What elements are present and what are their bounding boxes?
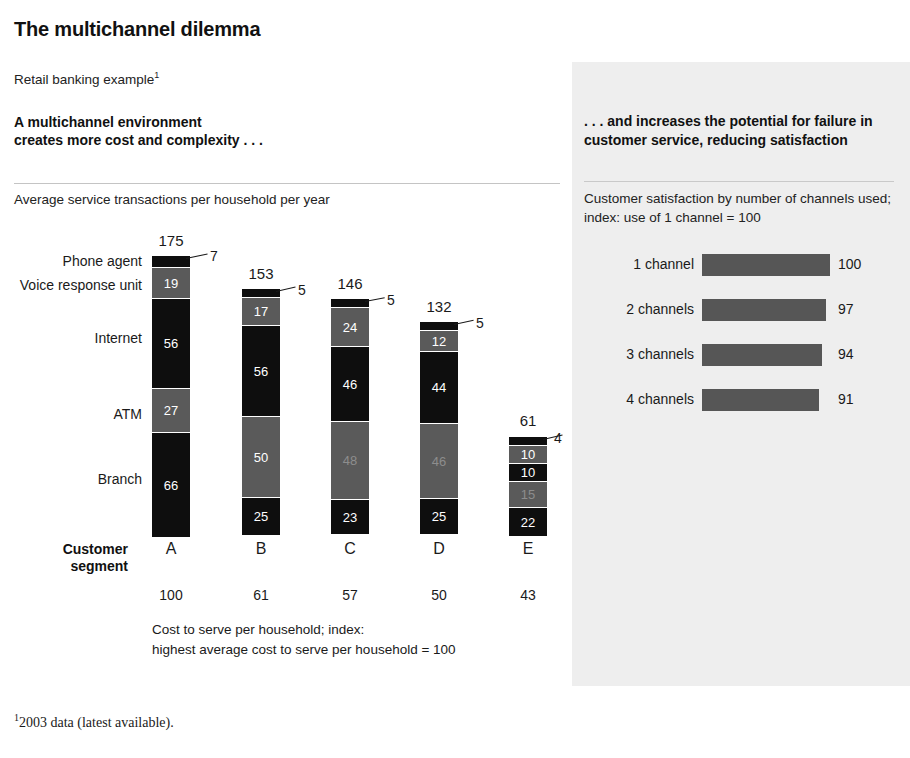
satisfaction-value: 94 [838, 346, 854, 362]
cost-to-serve-note-line-2: highest average cost to serve per househ… [152, 640, 552, 660]
transactions-stacked-column-chart: Phone agent Voice response unit Internet… [0, 0, 572, 700]
segment-letter-e: E [498, 540, 558, 558]
segment-b-voice-response-unit: 17 [242, 298, 280, 325]
footnote-text: 2003 data (latest available). [19, 715, 174, 730]
column-total-b: 153 [231, 265, 291, 282]
column-total-e: 61 [498, 412, 558, 429]
segment-d-branch: 25 [420, 499, 458, 534]
segment-b-branch: 25 [242, 498, 280, 535]
segment-b-phone-agent-value: 5 [298, 282, 306, 298]
segment-a-internet: 56 [152, 299, 190, 388]
right-divider [584, 181, 894, 182]
segment-c-branch: 23 [331, 500, 369, 534]
satisfaction-bar [702, 389, 819, 411]
segment-c-voice-response-unit: 24 [331, 308, 369, 346]
segment-letter-d: D [409, 540, 469, 558]
satisfaction-category-label: 1 channel [584, 256, 694, 272]
satisfaction-row: 2 channels 97 [584, 298, 894, 324]
right-deck-heading: . . . and increases the potential for fa… [584, 112, 894, 149]
column-total-a: 175 [141, 232, 201, 249]
satisfaction-bar [702, 299, 826, 321]
segment-letter-c: C [320, 540, 380, 558]
segment-e-voice-response-unit: 10 [509, 446, 547, 463]
segment-e-atm: 15 [509, 482, 547, 507]
leader-line-b [276, 287, 296, 292]
satisfaction-category-label: 4 channels [584, 391, 694, 407]
customer-segment-axis-title: Customer segment [18, 541, 128, 575]
series-label-atm: ATM [2, 406, 142, 422]
series-label-phone-agent: Phone agent [2, 253, 142, 269]
segment-e-branch: 22 [509, 508, 547, 536]
satisfaction-value: 100 [838, 256, 861, 272]
satisfaction-bar [702, 344, 822, 366]
segment-a-branch: 66 [152, 433, 190, 537]
segment-a-voice-response-unit: 19 [152, 268, 190, 298]
segment-e-phone-agent-value: 4 [554, 430, 562, 446]
column-b: 17 56 50 25 [242, 289, 280, 535]
cost-index-b: 61 [231, 587, 291, 603]
column-a: 19 56 27 66 [152, 256, 190, 537]
segment-a-atm: 27 [152, 389, 190, 432]
leader-line-c [365, 297, 385, 302]
segment-a-phone-agent [152, 256, 190, 267]
leader-line-a [186, 253, 208, 259]
segment-b-internet: 56 [242, 326, 280, 416]
cost-index-c: 57 [320, 587, 380, 603]
cost-index-d: 50 [409, 587, 469, 603]
satisfaction-row: 3 channels 94 [584, 343, 894, 369]
segment-e-phone-agent [509, 437, 547, 445]
segment-a-phone-agent-value: 7 [210, 248, 218, 264]
leader-line-d [454, 320, 474, 325]
series-label-internet: Internet [2, 330, 142, 346]
right-axis-note: Customer satisfaction by number of chann… [584, 189, 900, 227]
cost-index-a: 100 [141, 587, 201, 603]
column-total-d: 132 [409, 298, 469, 315]
cost-index-e: 43 [498, 587, 558, 603]
segment-d-phone-agent-value: 5 [476, 315, 484, 331]
cost-to-serve-note-line-1: Cost to serve per household; index: [152, 620, 552, 640]
satisfaction-category-label: 2 channels [584, 301, 694, 317]
segment-d-internet: 44 [420, 352, 458, 423]
column-c: 24 46 48 23 [331, 299, 369, 534]
satisfaction-value: 91 [838, 391, 854, 407]
satisfaction-category-label: 3 channels [584, 346, 694, 362]
segment-letter-b: B [231, 540, 291, 558]
cost-to-serve-note: Cost to serve per household; index: high… [152, 620, 552, 660]
segment-b-phone-agent [242, 289, 280, 297]
satisfaction-row: 1 channel 100 [584, 253, 894, 279]
series-label-voice-response-unit: Voice response unit [2, 277, 142, 293]
column-e: 10 10 15 22 [509, 437, 547, 536]
segment-c-internet: 46 [331, 347, 369, 421]
segment-d-voice-response-unit: 12 [420, 331, 458, 351]
segment-c-phone-agent [331, 299, 369, 307]
footnote: 12003 data (latest available). [14, 712, 174, 731]
segment-b-atm: 50 [242, 417, 280, 497]
satisfaction-value: 97 [838, 301, 854, 317]
segment-letter-a: A [141, 540, 201, 558]
column-total-c: 146 [320, 275, 380, 292]
series-label-branch: Branch [2, 471, 142, 487]
customer-segment-axis-title-line-1: Customer [18, 541, 128, 558]
segment-c-atm: 48 [331, 422, 369, 499]
satisfaction-row: 4 channels 91 [584, 388, 894, 414]
satisfaction-panel [572, 62, 910, 686]
segment-c-phone-agent-value: 5 [387, 292, 395, 308]
segment-d-atm: 46 [420, 424, 458, 498]
segment-d-phone-agent [420, 322, 458, 330]
customer-segment-axis-title-line-2: segment [18, 558, 128, 575]
satisfaction-bar [702, 254, 830, 276]
segment-e-internet: 10 [509, 464, 547, 481]
column-d: 12 44 46 25 [420, 322, 458, 534]
